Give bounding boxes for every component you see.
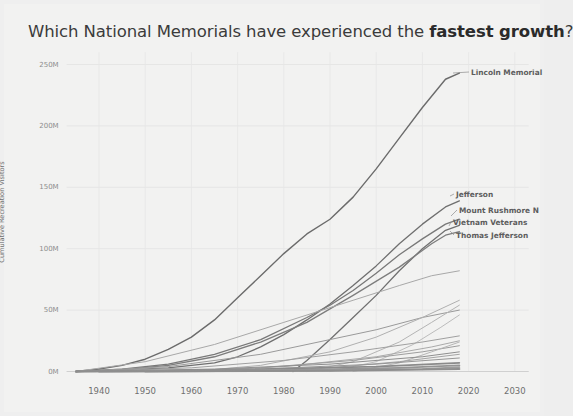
x-axis-tick-label: 1960	[166, 386, 216, 396]
x-axis-tick-label: 2030	[490, 386, 540, 396]
chart-card: Which National Memorials have experience…	[4, 4, 540, 412]
y-axis-tick-label: 100M	[19, 245, 59, 253]
x-axis-tick-label: 1970	[213, 386, 263, 396]
x-axis-tick-label: 1940	[74, 386, 124, 396]
y-axis-tick-label: 50M	[19, 306, 59, 314]
series-label-jefferson[interactable]: Jefferson	[456, 190, 493, 199]
x-axis-tick-label: 2000	[351, 386, 401, 396]
y-axis-tick-label: 250M	[19, 61, 59, 69]
y-axis-tick-label: 0M	[19, 368, 59, 376]
series-label-vietnam-veterans[interactable]: Vietnam Veterans	[453, 218, 527, 227]
y-axis-title: Cumulative Recreation Visitors	[0, 152, 6, 272]
x-axis-tick-label: 2010	[397, 386, 447, 396]
y-axis-tick-label: 200M	[19, 122, 59, 130]
series-label-lincoln-memorial[interactable]: Lincoln Memorial	[471, 68, 542, 77]
x-axis-tick-label: 1980	[259, 386, 309, 396]
plot-area: 0M50M100M150M200M250M1940195019601970198…	[4, 4, 548, 416]
series-label-thomas-jefferson[interactable]: Thomas Jefferson	[456, 231, 528, 240]
x-axis-tick-label: 2020	[444, 386, 494, 396]
x-axis-tick-label: 1950	[120, 386, 170, 396]
title-suffix: ?	[565, 22, 573, 41]
x-axis-tick-label: 1990	[305, 386, 355, 396]
y-axis-tick-label: 150M	[19, 183, 59, 191]
series-label-mount-rushmore-n[interactable]: Mount Rushmore N	[459, 206, 539, 215]
